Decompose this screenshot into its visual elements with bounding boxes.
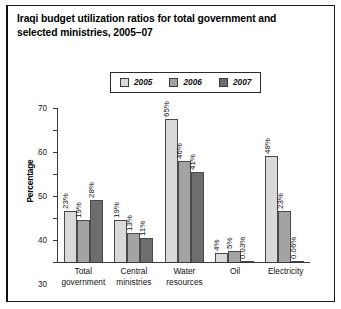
y-tick-40: 40	[53, 174, 57, 175]
x-category-line: government	[58, 277, 109, 288]
legend-label-2006: 2006	[183, 78, 201, 87]
x-category-label-4: Electricity	[260, 266, 311, 287]
bar-group-0: 23%19%28%	[58, 108, 108, 262]
bar-group-4: 48%23%0.06%	[260, 108, 310, 262]
bar-groups: 23%19%28%19%13%11%65%46%41%4%5%0.03%48%2…	[58, 108, 310, 262]
x-category-line: Central	[109, 266, 160, 277]
chart-legend: 200520062007	[110, 72, 261, 93]
bar-value-label: 5%	[226, 238, 234, 249]
legend-label-2007: 2007	[233, 78, 251, 87]
bar-value-label: 13%	[126, 216, 134, 232]
x-category-line: Oil	[210, 266, 261, 277]
bar-total-government-2007[interactable]: 28%	[90, 200, 103, 262]
y-tick-70: 70	[53, 108, 57, 109]
legend-swatch-2007	[219, 78, 228, 87]
bar-water-resources-2005[interactable]: 65%	[165, 119, 178, 262]
x-category-line: Total	[58, 266, 109, 277]
y-axis-label: Percentage	[25, 144, 35, 218]
y-tick-label-30: 30	[38, 280, 47, 289]
bar-oil-2007[interactable]: 0.03%	[241, 261, 254, 262]
chart-title: Iraqi budget utilization ratios for tota…	[17, 12, 307, 39]
bar-group-2: 65%46%41%	[159, 108, 209, 262]
bar-value-label: 0.06%	[290, 236, 298, 258]
bar-total-government-2005[interactable]: 23%	[64, 211, 77, 262]
x-category-line: ministries	[109, 277, 160, 288]
y-tick-label-40: 40	[38, 236, 47, 245]
bar-electricity-2007[interactable]: 0.06%	[291, 261, 304, 262]
bar-value-label: 19%	[75, 202, 83, 218]
x-category-line: Water	[159, 266, 210, 277]
legend-swatch-2006	[169, 78, 178, 87]
bar-value-label: 23%	[62, 194, 70, 210]
y-tick-label-60: 60	[38, 148, 47, 157]
x-category-label-0: Totalgovernment	[58, 266, 109, 287]
y-tick-50: 50	[53, 152, 57, 153]
x-category-label-1: Centralministries	[109, 266, 160, 287]
x-axis-category-labels: TotalgovernmentCentralministriesWaterres…	[58, 266, 311, 287]
bar-total-government-2006[interactable]: 19%	[77, 220, 90, 262]
bar-oil-2005[interactable]: 4%	[215, 253, 228, 262]
y-tick-10: 10	[53, 240, 57, 241]
y-tick-20: 20	[53, 218, 57, 219]
bar-value-label: 11%	[139, 221, 147, 236]
bar-value-label: 65%	[163, 101, 171, 117]
bar-value-label: 23%	[277, 194, 285, 210]
bar-value-label: 19%	[113, 202, 121, 218]
legend-label-2005: 2005	[134, 78, 152, 87]
chart-figure: Iraqi budget utilization ratios for tota…	[0, 0, 341, 309]
x-category-label-3: Oil	[210, 266, 261, 287]
bar-value-label: 4%	[213, 240, 221, 251]
y-tick-label-50: 50	[38, 192, 47, 201]
plot-area: 010203040506070 23%19%28%19%13%11%65%46%…	[57, 108, 310, 262]
bar-value-label: 46%	[176, 143, 184, 159]
legend-item-2006[interactable]: 2006	[169, 78, 201, 87]
legend-swatch-2005	[120, 78, 129, 87]
bar-value-label: 41%	[189, 154, 197, 170]
y-tick-30: 30	[53, 196, 57, 197]
y-tick-60: 60	[53, 130, 57, 131]
bar-value-label: 0.03%	[239, 236, 247, 258]
bar-water-resources-2006[interactable]: 46%	[178, 161, 191, 262]
bar-central-ministries-2007[interactable]: 11%	[140, 238, 153, 262]
bar-central-ministries-2006[interactable]: 13%	[127, 233, 140, 262]
legend-item-2007[interactable]: 2007	[219, 78, 251, 87]
bar-group-1: 19%13%11%	[108, 108, 158, 262]
x-category-line: Electricity	[260, 266, 311, 277]
bar-value-label: 28%	[88, 183, 96, 199]
x-category-label-2: Waterresources	[159, 266, 210, 287]
x-category-line: resources	[159, 277, 210, 288]
x-axis-line	[57, 262, 310, 263]
y-tick-label-70: 70	[38, 104, 47, 113]
bar-value-label: 48%	[264, 139, 272, 155]
y-tick-0: 0	[53, 262, 57, 263]
bar-water-resources-2007[interactable]: 41%	[191, 172, 204, 262]
bar-electricity-2005[interactable]: 48%	[265, 156, 278, 262]
bar-group-3: 4%5%0.03%	[209, 108, 259, 262]
legend-item-2005[interactable]: 2005	[120, 78, 152, 87]
